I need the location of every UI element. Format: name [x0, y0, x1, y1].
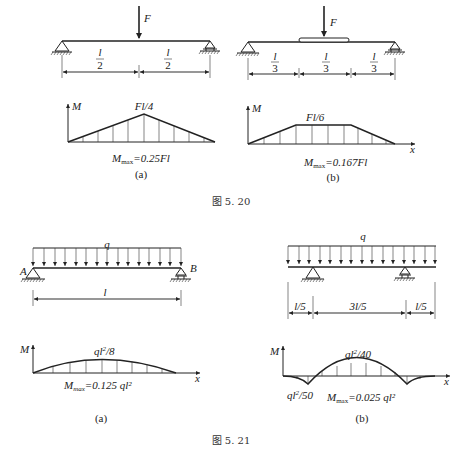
svg-text:l: l — [166, 46, 169, 58]
fig-5-20-b-beam: F l 3 l 3 — [236, 6, 405, 80]
sub-caption: (b) — [327, 171, 340, 184]
span-label: l 3 — [322, 50, 330, 74]
load-label: F — [143, 12, 151, 24]
fig-5-21-a-moment-diagram: M x ql2/8 Mmax=0.125 ql² (a) — [19, 343, 200, 425]
peak-moment-label: ql2/40 — [345, 348, 372, 360]
sub-caption: (a) — [135, 168, 148, 181]
distributed-load-arrows — [33, 248, 181, 266]
svg-text:l: l — [324, 50, 327, 62]
roller-support-icon — [199, 41, 220, 54]
roller-support-icon — [384, 42, 405, 55]
peak-moment-label: Fl/4 — [134, 100, 154, 112]
svg-text:l: l — [372, 50, 375, 62]
svg-text:3: 3 — [371, 62, 377, 74]
support-a-label: A — [19, 265, 27, 277]
x-axis-label: x — [194, 372, 200, 384]
span-label: l/5 — [294, 300, 306, 312]
svg-text:2: 2 — [165, 59, 171, 71]
load-label: F — [329, 16, 337, 28]
span-label: l 3 — [370, 50, 378, 74]
sub-caption: (a) — [95, 412, 108, 425]
svg-text:3: 3 — [323, 62, 329, 74]
figure-caption: 图 5. 21 — [212, 435, 251, 446]
max-moment-label: Mmax=0.025 ql² — [326, 391, 396, 405]
span-label: 3l/5 — [348, 300, 367, 312]
span-label: l/5 — [415, 300, 427, 312]
span-label: l 2 — [96, 46, 104, 71]
m-axis-label: M — [19, 343, 30, 355]
svg-text:2: 2 — [97, 59, 103, 71]
span-label: l 3 — [271, 50, 279, 74]
roller-support-icon — [170, 268, 191, 282]
fig-5-20-a-moment-diagram: M Fl/4 Mmax=0.25Fl (a) — [68, 100, 215, 181]
support-moment-label: ql2/50 — [287, 389, 314, 401]
x-axis-label: x — [409, 143, 415, 155]
pin-support-icon — [51, 41, 72, 55]
fig-5-21-b-beam: q — [288, 230, 436, 319]
m-axis-label: M — [71, 100, 82, 112]
max-moment-label: Mmax=0.25Fl — [111, 152, 170, 166]
max-moment-label: Mmax=0.167Fl — [303, 156, 367, 170]
fig-5-21-a-beam: q A B — [19, 238, 197, 306]
span-label: l 2 — [164, 46, 172, 71]
roller-support-icon — [394, 267, 415, 281]
fig-5-20-a-beam: F l 2 l 2 — [51, 6, 220, 78]
beam-diagrams: F l 2 l 2 — [0, 0, 462, 456]
peak-moment-label: Fl/6 — [305, 111, 325, 123]
m-axis-label: M — [269, 345, 280, 357]
svg-text:l: l — [273, 50, 276, 62]
load-distribution-plate — [299, 38, 349, 42]
load-label: q — [360, 230, 366, 242]
peak-moment-label: ql2/8 — [94, 345, 115, 357]
svg-text:l: l — [98, 46, 101, 58]
sub-caption: (b) — [356, 412, 369, 425]
x-axis-label: x — [443, 375, 449, 387]
distributed-load-arrows — [288, 246, 435, 264]
pin-support-icon — [301, 267, 324, 282]
span-label: l — [103, 286, 106, 298]
m-axis-label: M — [251, 102, 262, 114]
support-b-label: B — [190, 262, 197, 274]
pin-support-icon — [236, 42, 259, 56]
figure-caption: 图 5. 20 — [212, 196, 251, 207]
fig-5-21-b-moment-diagram: M x ql2/40 ql2/50 Mmax=0.025 ql² (b) — [269, 345, 450, 425]
svg-text:3: 3 — [272, 62, 278, 74]
max-moment-label: Mmax=0.125 ql² — [63, 379, 132, 393]
fig-5-20-b-moment-diagram: M x Fl/6 Mmax=0.167Fl (b) — [248, 102, 415, 184]
